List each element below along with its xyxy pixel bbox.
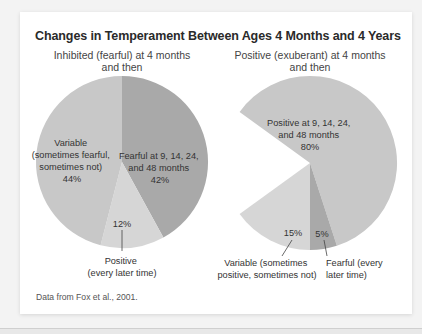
source-note: Data from Fox et al., 2001.	[36, 292, 138, 302]
right-variable-line1: Variable (sometimes	[224, 258, 307, 268]
left-pie: Fearful at 9, 14, 24, and 48 months 42% …	[32, 76, 208, 278]
left-positive-line1: Positive	[105, 256, 137, 266]
left-variable-line2: (sometimes fearful,	[32, 150, 110, 160]
right-variable-line2: positive, sometimes not)	[217, 270, 316, 280]
left-fearful-pct: 42%	[151, 175, 169, 185]
left-variable-line1: Variable	[54, 138, 87, 148]
pie-charts: Fearful at 9, 14, 24, and 48 months 42% …	[20, 12, 412, 314]
right-pie: Positive at 9, 14, 24, and 48 months 80%…	[217, 76, 397, 280]
left-variable-line3: sometimes not)	[39, 162, 102, 172]
right-positive-pct: 80%	[301, 142, 319, 152]
right-positive-line2: and 48 months	[278, 130, 339, 140]
left-variable-pct: 44%	[63, 174, 81, 184]
right-positive-line1: Positive at 9, 14, 24,	[267, 118, 350, 128]
left-fearful-line2: and 48 months	[128, 163, 189, 173]
right-fearful-pct: 5%	[315, 229, 328, 239]
right-variable-pct: 15%	[284, 228, 302, 238]
left-fearful-line1: Fearful at 9, 14, 24,	[119, 151, 199, 161]
svg-text:Fearful (every later t: Fearful (every later time)	[326, 258, 385, 280]
right-fearful-line2: later time)	[326, 270, 367, 280]
right-fearful-line1: Fearful (every	[326, 258, 383, 268]
page-edge	[0, 328, 422, 334]
left-positive-pct: 12%	[113, 219, 131, 229]
svg-text:Positive (every later: Positive (every later time)	[88, 256, 157, 278]
figure-card: Changes in Temperament Between Ages 4 Mo…	[20, 12, 412, 314]
left-positive-line2: (every later time)	[88, 268, 157, 278]
svg-text:Variable (sometimes po: Variable (sometimes positive, sometimes …	[217, 258, 316, 280]
